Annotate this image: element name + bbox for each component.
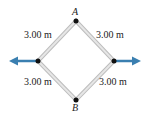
left-force-arrow <box>9 57 38 66</box>
vertex-label-b: B <box>72 103 78 113</box>
node-right <box>112 59 117 64</box>
side-label-bottom-right: 3.00 m <box>99 77 127 87</box>
node-a <box>74 19 79 24</box>
right-force-arrow <box>114 57 141 66</box>
side-label-top-left: 3.00 m <box>24 30 52 40</box>
side-label-top-right: 3.00 m <box>96 30 124 40</box>
side-label-bottom-left: 3.00 m <box>24 77 52 87</box>
node-left <box>36 59 41 64</box>
vertex-label-a: A <box>72 7 78 17</box>
